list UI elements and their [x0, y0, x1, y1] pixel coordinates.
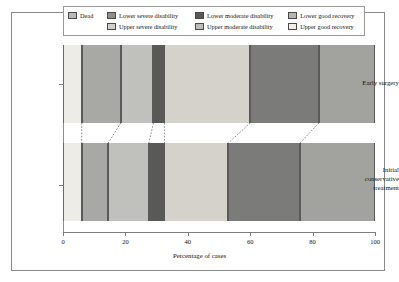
- x-axis-tick: [188, 232, 189, 236]
- bar-segment: [63, 45, 82, 123]
- legend-item-lower-moderate-disability: Lower moderate disability: [195, 12, 288, 19]
- x-axis-tick: [250, 232, 251, 236]
- y-label-line1: Initial: [365, 165, 399, 174]
- bar-segment: [63, 143, 82, 221]
- legend-item-upper-severe-disability: Upper severe disability: [107, 23, 195, 30]
- legend-label: Lower good recovery: [300, 12, 354, 19]
- connector-line: [149, 123, 154, 143]
- legend-row-lower: Dead Lower severe disability Lower moder…: [68, 10, 361, 21]
- x-axis-tick-label: 0: [61, 238, 64, 246]
- bar-early-surgery: [63, 45, 375, 123]
- legend-label: Upper severe disability: [119, 23, 177, 30]
- x-axis-tick: [375, 232, 376, 236]
- legend-item-lower-good-recovery: Lower good recovery: [288, 12, 361, 19]
- y-axis-tick: [59, 84, 64, 85]
- legend-swatch-icon: [68, 12, 77, 19]
- legend-label: Dead: [80, 12, 93, 19]
- bar-segment: [82, 45, 121, 123]
- bar-segment: [149, 143, 165, 221]
- y-label-line2: conservative: [365, 174, 399, 183]
- x-axis-title: Percentage of cases: [0, 252, 399, 259]
- legend-swatch-icon: [195, 12, 204, 19]
- connector-lines: [63, 123, 375, 143]
- bar-segment: [121, 45, 154, 123]
- legend-row-upper: Upper severe disability Upper moderate d…: [68, 21, 361, 32]
- y-axis-label-early-surgery: Early surgery: [362, 78, 399, 87]
- x-axis-tick-label: 60: [247, 238, 254, 246]
- bar-segment: [250, 45, 319, 123]
- legend-label: Upper moderate disability: [207, 23, 273, 30]
- y-axis-label-initial-conservative-treatment: Initial conservative treatment: [365, 165, 399, 192]
- bar-segment: [164, 143, 228, 221]
- legend-item-lower-severe-disability: Lower severe disability: [107, 12, 195, 19]
- x-axis-tick: [313, 232, 314, 236]
- y-label-line3: treatment: [365, 183, 399, 192]
- bar-segment: [82, 143, 109, 221]
- y-label-text: Early surgery: [362, 79, 399, 86]
- chart-legend: Dead Lower severe disability Lower moder…: [63, 6, 365, 36]
- legend-item-dead: Dead: [68, 12, 107, 19]
- legend-swatch-icon: [107, 23, 116, 30]
- connector-line: [228, 123, 250, 143]
- x-axis-tick-label: 20: [122, 238, 129, 246]
- x-axis-tick: [63, 232, 64, 236]
- x-axis-tick-label: 100: [370, 238, 380, 246]
- x-axis-tick-label: 80: [309, 238, 316, 246]
- legend-label: Upper good recovery: [300, 23, 354, 30]
- bar-segment: [153, 45, 164, 123]
- bar-segment: [228, 143, 300, 221]
- legend-swatch-icon: [195, 23, 204, 30]
- bar-segment: [164, 45, 250, 123]
- legend-item-upper-moderate-disability: Upper moderate disability: [195, 23, 288, 30]
- legend-label: Lower moderate disability: [207, 12, 273, 19]
- x-axis-line: [63, 232, 375, 233]
- y-axis-tick: [59, 185, 64, 186]
- connector-line: [300, 123, 319, 143]
- bar-initial-conservative-treatment: [63, 143, 375, 221]
- x-axis-tick-label: 40: [185, 238, 192, 246]
- x-axis-tick: [125, 232, 126, 236]
- legend-swatch-icon: [288, 23, 297, 30]
- legend-swatch-icon: [107, 12, 116, 19]
- legend-label: Lower severe disability: [119, 12, 178, 19]
- connector-line: [108, 123, 120, 143]
- legend-item-upper-good-recovery: Upper good recovery: [288, 23, 361, 30]
- legend-swatch-icon: [288, 12, 297, 19]
- bar-segment: [108, 143, 149, 221]
- figure-container: Dead Lower severe disability Lower moder…: [0, 0, 399, 282]
